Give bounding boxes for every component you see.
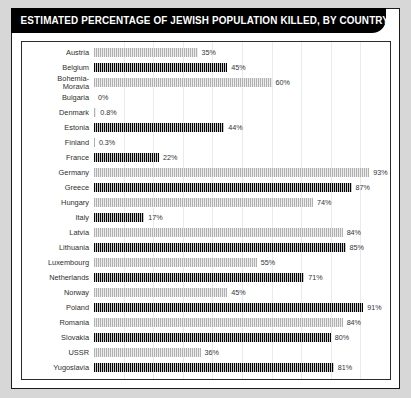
table-row: Finland0.3% (22, 135, 390, 150)
table-row: Austria35% (22, 45, 390, 60)
table-row: Latvia84% (22, 225, 390, 240)
bar (94, 48, 198, 57)
table-row: USSR36% (22, 345, 390, 360)
country-label: Luxembourg (22, 259, 94, 267)
country-label: Greece (22, 184, 94, 192)
bar-track: 71% (94, 270, 390, 285)
country-label: Latvia (22, 229, 94, 237)
chart-card: ESTIMATED PERCENTAGE OF JEWISH POPULATIO… (11, 8, 400, 389)
bar (94, 348, 201, 357)
bar (94, 138, 95, 147)
bar (94, 63, 227, 72)
gridline (390, 42, 391, 379)
table-row: Germany93% (22, 165, 390, 180)
bar-value-label: 81% (338, 363, 352, 372)
bar (94, 288, 227, 297)
bar (94, 333, 331, 342)
country-label: France (22, 154, 94, 162)
bar (94, 303, 363, 312)
bar-track: 55% (94, 255, 390, 270)
bar (94, 78, 272, 87)
bar (94, 228, 343, 237)
bar-track: 35% (94, 45, 390, 60)
country-label: Bohemia- Moravia (22, 75, 94, 90)
bar (94, 183, 352, 192)
table-row: Slovakia80% (22, 330, 390, 345)
bar-value-label: 17% (148, 213, 162, 222)
country-label: Poland (22, 304, 94, 312)
bar-value-label: 0.8% (100, 108, 116, 117)
bar (94, 213, 144, 222)
country-label: Yugoslavia (22, 364, 94, 372)
bar-value-label: 36% (205, 348, 219, 357)
bar (94, 273, 304, 282)
bar-track: 81% (94, 360, 390, 375)
bar-track: 91% (94, 300, 390, 315)
table-row: Estonia44% (22, 120, 390, 135)
table-row: Belgium45% (22, 60, 390, 75)
country-label: Netherlands (22, 274, 94, 282)
table-row: Hungary74% (22, 195, 390, 210)
table-row: France22% (22, 150, 390, 165)
bar-track: 22% (94, 150, 390, 165)
bar-track: 84% (94, 225, 390, 240)
bar-value-label: 22% (163, 153, 177, 162)
bar-track: 0.8% (94, 105, 390, 120)
bar-track: 45% (94, 60, 390, 75)
bar-value-label: 87% (356, 183, 370, 192)
table-row: Greece87% (22, 180, 390, 195)
bar-value-label: 85% (350, 243, 364, 252)
country-label: Germany (22, 169, 94, 177)
table-row: Luxembourg55% (22, 255, 390, 270)
country-label: Austria (22, 49, 94, 57)
country-label: USSR (22, 349, 94, 357)
table-row: Italy17% (22, 210, 390, 225)
bar-track: 84% (94, 315, 390, 330)
bar-value-label: 93% (373, 168, 387, 177)
bar-value-label: 84% (347, 318, 361, 327)
bar (94, 108, 96, 117)
bar-track: 0.3% (94, 135, 390, 150)
country-label: Denmark (22, 109, 94, 117)
bar-track: 45% (94, 285, 390, 300)
bar (94, 168, 369, 177)
table-row: Yugoslavia81% (22, 360, 390, 375)
table-row: Poland91% (22, 300, 390, 315)
country-label: Lithuania (22, 244, 94, 252)
country-label: Hungary (22, 199, 94, 207)
bar-track: 0% (94, 90, 390, 105)
country-label: Finland (22, 139, 94, 147)
bar-value-label: 45% (231, 63, 245, 72)
bar (94, 363, 334, 372)
bar-value-label: 84% (347, 228, 361, 237)
bar-track: 93% (94, 165, 390, 180)
bar-track: 60% (94, 75, 390, 90)
country-label: Romania (22, 319, 94, 327)
bar (94, 198, 313, 207)
bar-value-label: 60% (276, 78, 290, 87)
table-row: Bulgaria0% (22, 90, 390, 105)
table-row: Denmark0.8% (22, 105, 390, 120)
chart-title-bar: ESTIMATED PERCENTAGE OF JEWISH POPULATIO… (11, 8, 386, 33)
bar-value-label: 0.3% (99, 138, 115, 147)
bar-value-label: 91% (367, 303, 381, 312)
country-label: Italy (22, 214, 94, 222)
bar-value-label: 71% (308, 273, 322, 282)
bar-track: 17% (94, 210, 390, 225)
country-label: Estonia (22, 124, 94, 132)
plot-area: Austria35%Belgium45%Bohemia- Moravia60%B… (21, 41, 391, 380)
table-row: Norway45% (22, 285, 390, 300)
bar-track: 87% (94, 180, 390, 195)
bar (94, 243, 346, 252)
table-row: Bohemia- Moravia60% (22, 75, 390, 90)
bar-value-label: 35% (202, 48, 216, 57)
table-row: Romania84% (22, 315, 390, 330)
bar (94, 153, 159, 162)
bar-track: 44% (94, 120, 390, 135)
table-row: Lithuania85% (22, 240, 390, 255)
country-label: Norway (22, 289, 94, 297)
bar-value-label: 80% (335, 333, 349, 342)
bar-track: 74% (94, 195, 390, 210)
bar (94, 258, 257, 267)
table-row: Netherlands71% (22, 270, 390, 285)
